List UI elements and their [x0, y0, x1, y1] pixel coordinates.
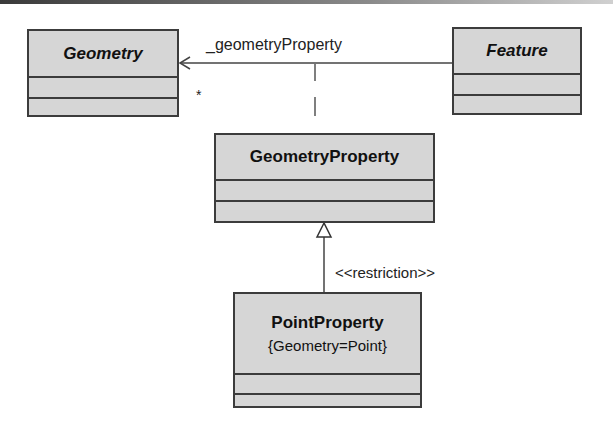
- class-geometry-property[interactable]: GeometryProperty: [214, 133, 435, 223]
- class-name: Geometry: [63, 44, 142, 64]
- operations-compartment: [29, 97, 177, 115]
- class-feature[interactable]: Feature: [452, 27, 582, 115]
- operations-compartment: [235, 393, 420, 406]
- operations-compartment: [216, 200, 433, 221]
- attributes-compartment: [216, 179, 433, 200]
- class-name: PointProperty: [271, 313, 383, 333]
- multiplicity-label: *: [196, 87, 201, 103]
- class-point-property[interactable]: PointProperty {Geometry=Point}: [233, 292, 422, 408]
- class-constraint: {Geometry=Point}: [268, 337, 387, 354]
- operations-compartment: [454, 94, 580, 113]
- class-name: Feature: [486, 41, 547, 61]
- stereotype-label: <<restriction>>: [335, 264, 435, 281]
- attributes-compartment: [454, 73, 580, 94]
- association-role-label: _geometryProperty: [206, 36, 342, 54]
- class-geometry[interactable]: Geometry: [27, 29, 179, 117]
- attributes-compartment: [29, 76, 177, 97]
- generalization-triangle-icon: [317, 223, 331, 237]
- attributes-compartment: [235, 373, 420, 393]
- class-name: GeometryProperty: [250, 147, 399, 167]
